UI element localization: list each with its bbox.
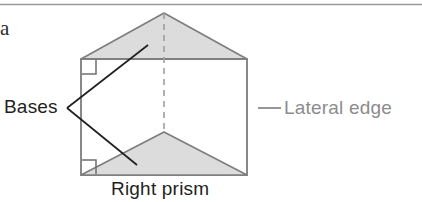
right-angle-marker-top <box>82 60 96 74</box>
figure-panel: a Bases Lateral edge Right prism <box>0 0 422 202</box>
label-right-prism: Right prism <box>111 179 209 198</box>
bases-leader-lower <box>67 108 137 165</box>
label-lateral-edge: Lateral edge <box>284 98 392 117</box>
label-bases: Bases <box>4 97 58 116</box>
front-base-triangle <box>81 132 247 175</box>
item-letter: a <box>0 18 9 39</box>
